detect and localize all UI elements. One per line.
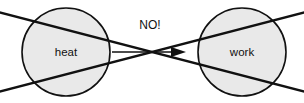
diagram-canvas: heat work NO! <box>0 0 304 103</box>
arrow-head-icon <box>171 47 186 57</box>
heat-label: heat <box>55 46 78 58</box>
work-label: work <box>229 46 255 58</box>
no-annotation-label: NO! <box>139 18 160 32</box>
heat-work-diagram-svg: heat work NO! <box>0 0 304 103</box>
